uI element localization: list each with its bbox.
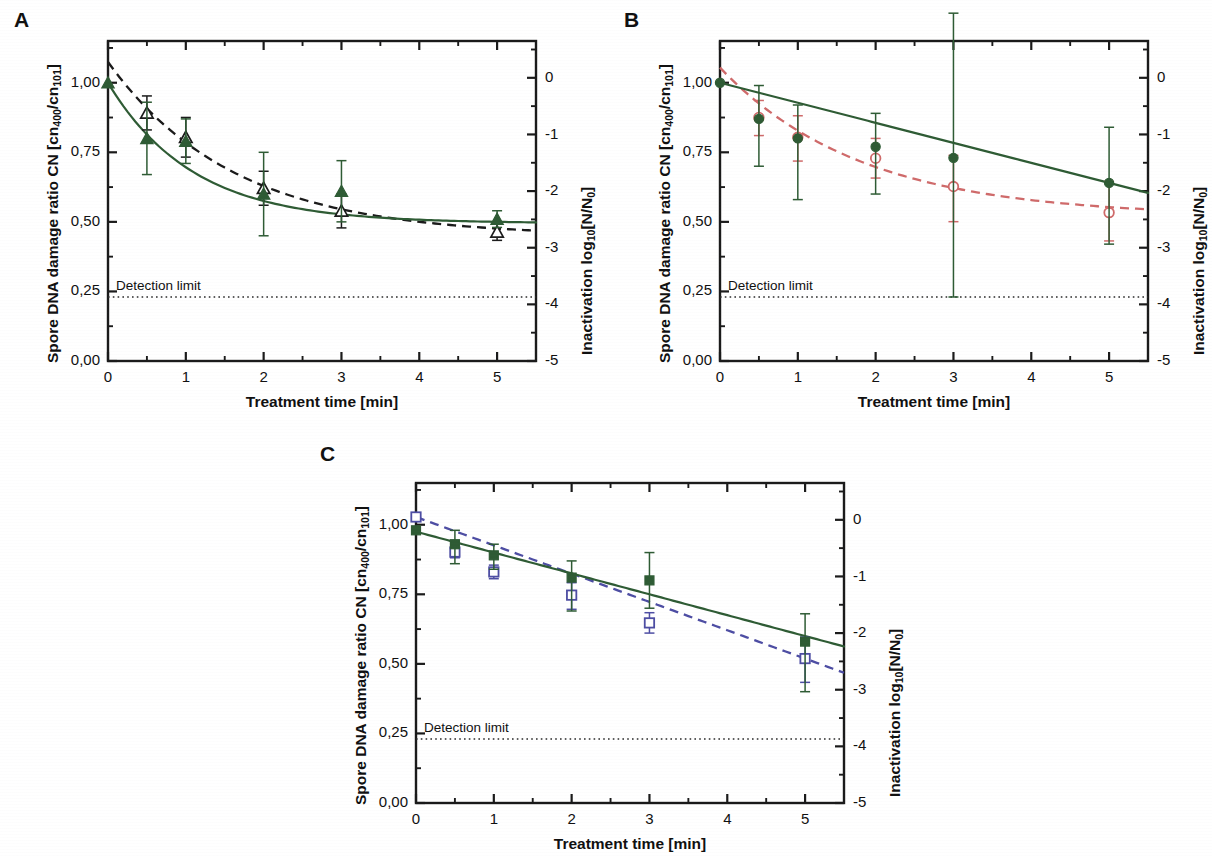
error-bar [793,105,803,200]
data-point-marker [793,134,802,143]
y-right-tick-label: 0 [545,68,571,85]
y-right-tick-label: -4 [545,294,571,311]
detection-limit-label: Detection limit [728,278,813,293]
data-point-marker [1104,178,1113,187]
y-right-tick-label: -3 [853,680,879,697]
x-tick-label: 1 [786,368,810,385]
fit-curve-inactivation [416,517,844,673]
panel-c-plot: 0123450,000,250,500,751,00-5-4-3-2-10Det… [306,430,908,856]
data-point-marker [491,213,503,224]
data-point-marker [949,153,958,162]
x-tick-label: 0 [708,368,732,385]
y-right-tick-label: -3 [1157,238,1183,255]
y-right-tick-label: 0 [1157,68,1183,85]
y-axis-left-title: Spore DNA damage ratio CN [cn400/cn101] [656,64,675,363]
data-point-marker [450,540,459,549]
y-right-tick-label: -2 [853,623,879,640]
data-point-marker [715,78,724,87]
x-tick-label: 2 [560,810,584,827]
x-tick-label: 5 [485,368,509,385]
x-tick-label: 3 [638,810,662,827]
y-right-tick-label: -1 [545,125,571,142]
detection-limit-label: Detection limit [424,720,509,735]
data-point-marker [645,576,654,585]
y-right-tick-label: -5 [853,793,879,810]
error-bar [800,614,810,692]
y-right-tick-label: -3 [545,238,571,255]
error-bar [567,561,577,611]
plot-frame [720,41,1148,361]
x-axis-ticks [720,41,1109,361]
detection-limit-label: Detection limit [116,278,201,293]
data-point-marker [567,573,576,582]
data-point-marker [335,185,347,196]
series-cn [412,526,811,692]
y-axis-right-ticks [527,49,536,361]
panel-a: A 0123450,000,250,500,751,00-5-4-3-2-10D… [0,0,600,430]
fit-curve-cn [108,83,536,223]
x-tick-label: 2 [252,368,276,385]
y-axis-left-ticks [720,48,729,361]
y-axis-right-ticks [1139,49,1148,361]
y-axis-left-title: Spore DNA damage ratio CN [cn400/cn101] [44,64,63,363]
x-tick-label: 1 [482,810,506,827]
x-axis-ticks [108,41,497,361]
fit-curve-cn [720,83,1148,193]
y-right-tick-label: 0 [853,510,879,527]
y-right-tick-label: -1 [853,567,879,584]
error-bar [754,86,764,167]
panel-b-plot: 0123450,000,250,500,751,00-5-4-3-2-10Det… [610,0,1212,430]
y-axis-left-ticks [416,490,425,803]
fit-curve-cn [416,532,844,647]
data-point-marker [411,512,420,521]
data-point-marker [871,142,880,151]
panel-c: C 0123450,000,250,500,751,00-5-4-3-2-10D… [306,430,908,856]
y-right-tick-label: -4 [853,736,879,753]
plot-frame [416,483,844,803]
x-tick-label: 2 [864,368,888,385]
x-tick-label: 4 [407,368,431,385]
y-axis-right-title: Inactivation log10[N/N0] [886,629,905,797]
y-right-tick-label: -2 [545,181,571,198]
panel-b: B 0123450,000,250,500,751,00-5-4-3-2-10D… [610,0,1212,430]
plot-frame [108,41,536,361]
data-point-marker [412,526,421,535]
y-right-tick-label: -5 [545,351,571,368]
series-cn [715,13,1114,297]
x-tick-label: 3 [942,368,966,385]
x-tick-label: 0 [96,368,120,385]
y-axis-right-title: Inactivation log10[N/N0] [1190,187,1209,355]
y-right-tick-label: -2 [1157,181,1183,198]
x-tick-label: 4 [715,810,739,827]
data-point-marker [801,637,810,646]
y-right-tick-label: -4 [1157,294,1183,311]
y-right-tick-label: -5 [1157,351,1183,368]
x-tick-label: 5 [793,810,817,827]
data-point-marker [645,618,654,627]
x-tick-label: 0 [404,810,428,827]
y-axis-left-title: Spore DNA damage ratio CN [cn400/cn101] [352,506,371,805]
x-tick-label: 3 [330,368,354,385]
x-axis-title: Treatment time [min] [720,393,1148,411]
error-bar [871,113,881,194]
data-point-marker [754,114,763,123]
x-tick-label: 5 [1097,368,1121,385]
y-axis-right-title: Inactivation log10[N/N0] [578,187,597,355]
panel-a-plot: 0123450,000,250,500,751,00-5-4-3-2-10Det… [0,0,600,430]
series-inactivation [411,512,810,682]
data-point-marker [489,551,498,560]
x-axis-ticks [416,483,805,803]
x-axis-title: Treatment time [min] [416,835,844,853]
x-axis-title: Treatment time [min] [108,393,536,411]
fit-curve-inactivation [108,62,536,231]
series-inactivation [141,96,504,240]
y-right-tick-label: -1 [1157,125,1183,142]
x-tick-label: 1 [174,368,198,385]
series-cn [102,77,503,236]
x-tick-label: 4 [1019,368,1043,385]
